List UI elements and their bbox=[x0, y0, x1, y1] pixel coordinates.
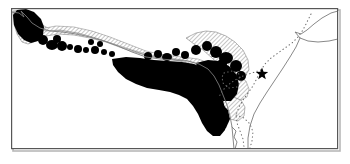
locality-dot bbox=[236, 71, 246, 81]
locality-dot bbox=[31, 28, 39, 36]
locality-dot bbox=[88, 39, 94, 45]
locality-dot bbox=[97, 41, 103, 47]
locality-dot bbox=[83, 47, 89, 53]
locality-dot bbox=[202, 41, 212, 51]
locality-dot bbox=[109, 51, 115, 57]
locality-dot bbox=[172, 48, 180, 56]
distribution-map-figure bbox=[0, 0, 350, 164]
locality-dot bbox=[144, 52, 152, 60]
map-content bbox=[11, 8, 338, 149]
locality-dot bbox=[67, 44, 73, 50]
locality-dot bbox=[53, 35, 61, 43]
locality-dot bbox=[181, 51, 189, 59]
locality-dot bbox=[191, 45, 201, 55]
locality-dot bbox=[154, 50, 162, 58]
locality-dot bbox=[217, 59, 227, 69]
locality-dot bbox=[230, 60, 242, 72]
locality-dot bbox=[91, 46, 99, 54]
locality-dot bbox=[101, 49, 107, 55]
locality-dot bbox=[74, 45, 82, 53]
map-canvas bbox=[0, 0, 350, 164]
